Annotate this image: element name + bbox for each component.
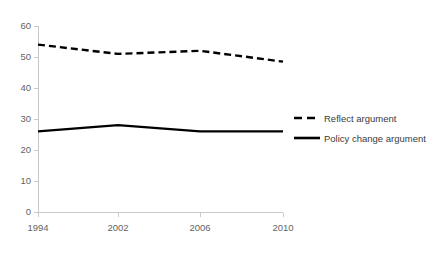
legend-label-policy-change-argument: Policy change argument [324, 133, 426, 144]
y-axis-tick-label: 20 [0, 145, 31, 155]
x-axis-line [38, 212, 283, 213]
line-chart: 0102030405060 1994200220062010 Reflect a… [0, 0, 431, 264]
legend-swatch-solid-icon [294, 133, 320, 143]
legend-item-policy-change-argument: Policy change argument [294, 128, 429, 148]
chart-legend: Reflect argument Policy change argument [294, 108, 429, 148]
series-lines [38, 26, 283, 212]
x-axis-tick [118, 213, 119, 217]
y-axis-tick-label: 10 [0, 176, 31, 186]
x-axis-tick-label: 2010 [272, 222, 293, 233]
plot-area [38, 26, 283, 212]
y-axis-tick-label: 0 [0, 207, 31, 217]
series-line-reflect-argument [38, 45, 283, 62]
legend-swatch-dashed-icon [294, 113, 320, 123]
x-axis-tick-label: 2002 [107, 222, 128, 233]
y-axis-tick-label: 50 [0, 52, 31, 62]
x-axis-tick [283, 213, 284, 217]
series-line-policy-change-argument [38, 125, 283, 131]
y-axis-tick-label: 30 [0, 114, 31, 124]
x-axis-tick-label: 1994 [27, 222, 48, 233]
legend-item-reflect-argument: Reflect argument [294, 108, 429, 128]
y-axis-tick-label: 40 [0, 83, 31, 93]
x-axis-tick-label: 2006 [189, 222, 210, 233]
legend-label-reflect-argument: Reflect argument [324, 113, 396, 124]
y-axis-tick-label: 60 [0, 21, 31, 31]
x-axis-tick [38, 213, 39, 217]
x-axis-tick [200, 213, 201, 217]
